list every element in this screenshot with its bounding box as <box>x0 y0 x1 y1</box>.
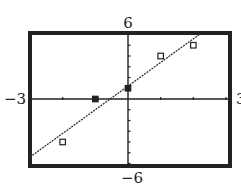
calculator-graph: 6 −6 −3 3 <box>0 0 241 185</box>
data-point-marker <box>158 53 164 59</box>
xmax-label: 3 <box>236 90 241 108</box>
data-point-marker <box>60 139 66 145</box>
data-point-marker <box>93 96 99 102</box>
ymin-label: −6 <box>121 169 143 185</box>
ymax-label: 6 <box>123 14 133 32</box>
xmin-label: −3 <box>4 90 26 108</box>
regression-line <box>30 35 199 158</box>
data-point-marker <box>125 86 131 92</box>
data-point-marker <box>191 43 197 49</box>
